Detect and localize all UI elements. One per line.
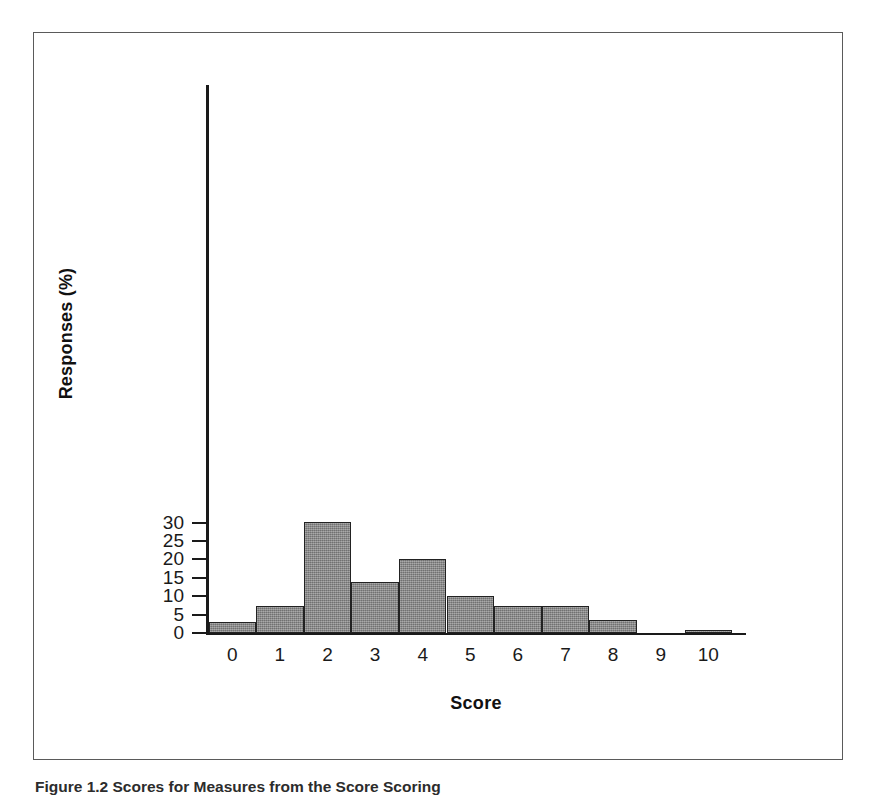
y-tick-label: 0 xyxy=(144,623,184,642)
x-tick-label: 9 xyxy=(641,645,681,664)
bar xyxy=(685,630,733,633)
x-tick-label: 3 xyxy=(355,645,395,664)
bar xyxy=(447,596,495,633)
y-axis-title: Responses (%) xyxy=(56,184,77,484)
bar xyxy=(256,606,304,633)
y-tick-mark xyxy=(192,614,206,616)
y-tick-label: 25 xyxy=(144,531,184,550)
y-axis-line xyxy=(206,85,209,634)
x-tick-label: 2 xyxy=(308,645,348,664)
y-tick-label: 30 xyxy=(144,513,184,532)
y-tick-label: 5 xyxy=(144,605,184,624)
y-tick-mark xyxy=(192,577,206,579)
figure-frame: 051015202530 012345678910 Score Response… xyxy=(33,32,843,760)
x-tick-label: 10 xyxy=(688,645,728,664)
figure-caption: Figure 1.2 Scores for Measures from the … xyxy=(35,778,855,796)
y-tick-mark xyxy=(192,558,206,560)
bar xyxy=(542,606,590,633)
bar xyxy=(399,559,447,633)
bar xyxy=(209,622,257,633)
y-tick-mark xyxy=(192,540,206,542)
bar xyxy=(494,606,542,633)
x-tick-label: 8 xyxy=(593,645,633,664)
x-tick-label: 1 xyxy=(260,645,300,664)
bar xyxy=(304,522,352,633)
y-tick-label: 10 xyxy=(144,586,184,605)
x-tick-label: 0 xyxy=(212,645,252,664)
x-tick-label: 7 xyxy=(546,645,586,664)
y-tick-mark xyxy=(192,595,206,597)
figure-page: 051015202530 012345678910 Score Response… xyxy=(0,0,875,797)
y-tick-label: 20 xyxy=(144,549,184,568)
bar xyxy=(351,582,399,633)
y-tick-mark xyxy=(192,522,206,524)
x-axis-title: Score xyxy=(206,693,746,714)
y-tick-mark xyxy=(192,632,206,634)
y-tick-label: 15 xyxy=(144,568,184,587)
chart-plot-area: 051015202530 012345678910 Score Response… xyxy=(34,33,844,761)
x-tick-label: 5 xyxy=(450,645,490,664)
x-tick-label: 4 xyxy=(403,645,443,664)
x-tick-label: 6 xyxy=(498,645,538,664)
bar xyxy=(589,620,637,633)
